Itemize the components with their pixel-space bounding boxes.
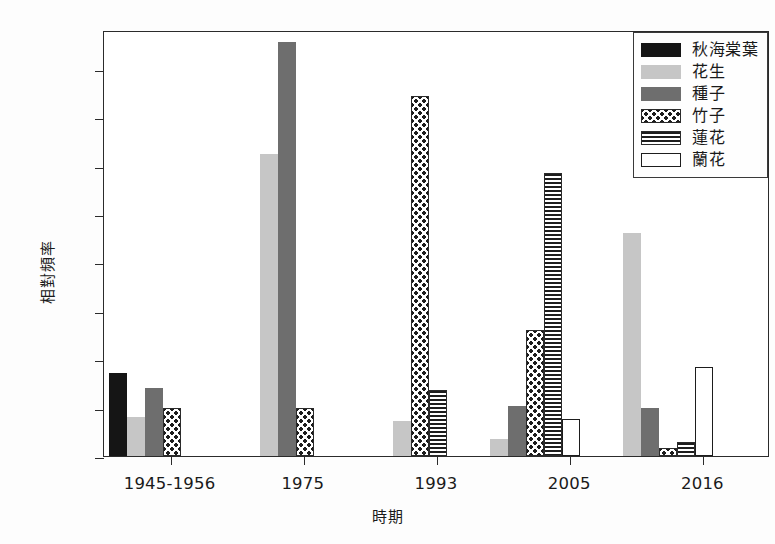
- bar: [562, 419, 580, 456]
- bar: [490, 439, 508, 456]
- bar: [163, 408, 181, 456]
- legend-label: 蓮花: [692, 130, 725, 146]
- legend-swatch-icon: [641, 131, 681, 145]
- bar: [411, 96, 429, 456]
- legend-item[interactable]: 竹子: [641, 105, 758, 127]
- y-axis-tick: [95, 264, 104, 265]
- x-axis-tick-label: 1945-1956: [124, 474, 216, 493]
- legend-swatch-icon: [641, 109, 681, 123]
- x-axis-tick-label: 2005: [548, 474, 591, 493]
- y-axis-tick: [95, 216, 104, 217]
- legend-item[interactable]: 秋海棠葉: [641, 39, 758, 61]
- bar: [508, 406, 526, 456]
- x-axis-tick: [703, 456, 704, 465]
- legend-label: 花生: [692, 64, 725, 80]
- bar: [526, 330, 544, 456]
- x-axis-tick-label: 1993: [415, 474, 458, 493]
- legend-item[interactable]: 花生: [641, 61, 758, 83]
- x-axis-tick: [570, 456, 571, 465]
- bar: [544, 173, 562, 456]
- x-axis-tick: [171, 456, 172, 465]
- x-axis-title: 時期: [0, 505, 775, 526]
- y-axis-tick: [95, 361, 104, 362]
- legend-label: 蘭花: [692, 152, 725, 168]
- legend-swatch-icon: [641, 153, 681, 167]
- bar: [429, 390, 447, 456]
- legend-label: 竹子: [692, 108, 725, 124]
- legend-swatch-icon: [641, 65, 681, 79]
- bar: [695, 367, 713, 456]
- y-axis-tick: [95, 168, 104, 169]
- chart-legend: 秋海棠葉花生種子竹子蓮花蘭花: [633, 32, 768, 178]
- legend-swatch-icon: [641, 87, 681, 101]
- x-axis-tick-label: 2016: [681, 474, 724, 493]
- bar: [109, 373, 127, 456]
- bar: [677, 442, 695, 456]
- legend-item[interactable]: 蓮花: [641, 127, 758, 149]
- y-axis-tick: [95, 313, 104, 314]
- legend-swatch-icon: [641, 43, 681, 57]
- legend-item[interactable]: 蘭花: [641, 149, 758, 171]
- legend-label: 秋海棠葉: [692, 42, 758, 58]
- bar: [127, 417, 145, 456]
- y-axis-tick: [95, 71, 104, 72]
- x-axis-tick-label: 1975: [281, 474, 324, 493]
- y-axis-tick: [95, 410, 104, 411]
- bar: [260, 154, 278, 456]
- bar: [659, 448, 677, 456]
- bar: [641, 408, 659, 456]
- bar: [393, 421, 411, 456]
- y-axis-tick: [95, 458, 104, 459]
- y-axis-tick: [95, 119, 104, 120]
- y-axis-title: 相對頻率: [36, 240, 57, 304]
- bar: [145, 388, 163, 456]
- bar: [623, 233, 641, 456]
- chart-figure: 相對頻率 時期 0.02.55.07.510.012.515.017.520.0…: [0, 0, 775, 544]
- x-axis-tick: [304, 456, 305, 465]
- legend-item[interactable]: 種子: [641, 83, 758, 105]
- legend-label: 種子: [692, 86, 725, 102]
- bar: [296, 408, 314, 456]
- x-axis-tick: [437, 456, 438, 465]
- bar: [278, 42, 296, 456]
